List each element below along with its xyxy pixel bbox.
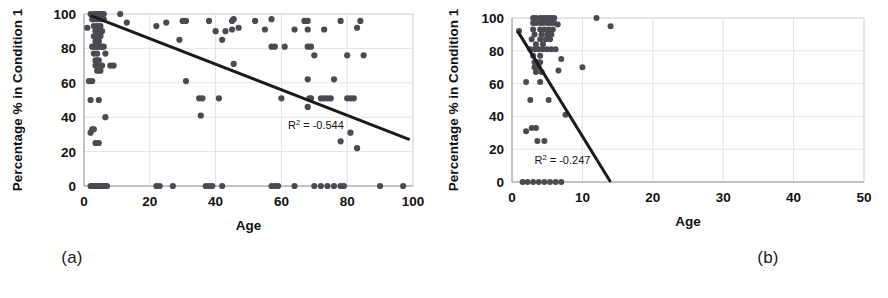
y-axis-ticks: 020406080100: [481, 11, 504, 190]
data-point: [524, 179, 530, 185]
data-point: [199, 95, 205, 101]
panel-b: 02040608010001020304050AgePercentage % i…: [444, 0, 888, 298]
data-point: [331, 183, 337, 189]
data-point: [84, 25, 90, 31]
data-point: [547, 36, 553, 42]
panel-a: 020406080100020406080100AgePercentage % …: [0, 0, 444, 298]
data-point: [213, 28, 219, 34]
data-point: [347, 130, 353, 136]
x-tick-label: 0: [80, 194, 88, 209]
data-points: [84, 11, 406, 189]
data-point: [117, 11, 123, 17]
x-tick-label: 20: [645, 190, 660, 205]
data-point: [124, 20, 130, 26]
x-axis-title: Age: [236, 218, 262, 233]
x-tick-label: 50: [856, 190, 871, 205]
data-point: [163, 20, 169, 26]
x-tick-label: 60: [274, 194, 289, 209]
y-tick-label: 0: [68, 179, 76, 194]
data-point: [102, 114, 108, 120]
data-point: [541, 138, 547, 144]
y-tick-label: 20: [61, 145, 76, 160]
y-tick-label: 100: [481, 11, 504, 26]
data-point: [558, 56, 564, 62]
y-axis-title: Percentage % in Condition 1: [446, 8, 461, 191]
data-point: [104, 183, 110, 189]
x-tick-label: 10: [575, 190, 590, 205]
data-point: [311, 183, 317, 189]
data-point: [537, 53, 543, 59]
data-point: [324, 183, 330, 189]
data-point: [555, 67, 561, 73]
data-point: [311, 52, 317, 58]
x-axis-ticks: 01020304050: [508, 190, 871, 205]
x-tick-label: 30: [716, 190, 731, 205]
data-point: [308, 44, 314, 50]
r2-prefix: R: [288, 119, 296, 131]
r2-value: = -0.247: [547, 154, 591, 166]
data-point: [523, 128, 529, 134]
data-point: [529, 36, 535, 42]
data-point: [198, 112, 204, 118]
data-point: [176, 37, 182, 43]
y-tick-label: 100: [53, 7, 76, 22]
data-point: [344, 52, 350, 58]
data-point: [96, 140, 102, 146]
figure-container: 020406080100020406080100AgePercentage % …: [0, 0, 888, 298]
data-point: [536, 179, 542, 185]
data-point: [102, 50, 108, 56]
data-point: [231, 61, 237, 67]
x-tick-label: 80: [340, 194, 355, 209]
data-point: [338, 138, 344, 144]
data-point: [291, 183, 297, 189]
y-tick-label: 20: [489, 142, 504, 157]
data-point: [553, 46, 559, 52]
y-tick-label: 40: [489, 109, 504, 124]
data-point: [305, 18, 311, 24]
y-tick-label: 80: [489, 44, 504, 59]
data-point: [157, 183, 163, 189]
data-point: [537, 79, 543, 85]
data-point: [533, 69, 539, 75]
y-axis-ticks: 020406080100: [53, 7, 76, 194]
data-point: [183, 18, 189, 24]
data-point: [275, 183, 281, 189]
data-point: [553, 179, 559, 185]
data-point: [377, 183, 383, 189]
panel-a-caption: (a): [0, 248, 294, 268]
data-point: [338, 18, 344, 24]
data-point: [229, 26, 235, 32]
x-tick-label: 40: [786, 190, 801, 205]
data-point: [354, 25, 360, 31]
data-point: [209, 183, 215, 189]
data-point: [534, 138, 540, 144]
y-tick-label: 60: [489, 77, 504, 92]
data-point: [89, 78, 95, 84]
data-point: [579, 64, 585, 70]
data-point: [331, 76, 337, 82]
x-tick-label: 100: [402, 194, 425, 209]
data-point: [555, 22, 561, 28]
data-point: [328, 95, 334, 101]
data-point: [527, 97, 533, 103]
data-point: [354, 145, 360, 151]
data-point: [91, 126, 97, 132]
data-point: [291, 26, 297, 32]
x-tick-label: 20: [142, 194, 157, 209]
data-point: [216, 95, 222, 101]
r2-value: = -0.544: [300, 119, 344, 131]
data-point: [231, 16, 237, 22]
plot-frame: [84, 14, 413, 186]
x-tick-label: 0: [508, 190, 516, 205]
data-point: [341, 183, 347, 189]
data-point: [608, 23, 614, 29]
y-tick-label: 40: [61, 110, 76, 125]
trendline: [91, 16, 410, 140]
r2-annotation: R2 = -0.247: [535, 153, 591, 166]
data-point: [533, 125, 539, 131]
r2-prefix: R: [535, 154, 543, 166]
data-point: [262, 26, 268, 32]
data-point: [94, 50, 100, 56]
data-point: [530, 179, 536, 185]
data-point: [278, 95, 284, 101]
